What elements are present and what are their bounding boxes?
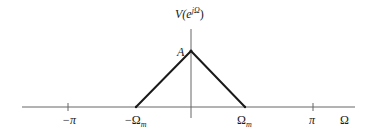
tick-label-pi: π [309,114,315,126]
y-axis-label-base: V(e [175,7,192,21]
y-axis-label-close: ) [200,7,204,21]
left-base-point [135,106,137,108]
tick-label-neg-omega-m: −Ωm [125,114,146,129]
y-axis-label-sup: jΩ [192,6,200,15]
tick-label-text: −Ω [125,113,141,127]
peak-point [190,50,193,53]
tick-label-neg-pi: −π [62,114,76,126]
peak-label: A [177,46,184,58]
x-axis-label: Ω [340,114,349,126]
tick-label-sub: m [246,120,252,129]
tick-label-sub: m [141,120,147,129]
y-axis-label: V(ejΩ) [175,7,204,20]
tick-label-text: −π [62,113,76,127]
tick-label-omega-m: Ωm [237,114,252,129]
right-base-point [244,106,246,108]
tick-label-text: Ω [237,113,246,127]
tick-label-text: π [309,113,315,127]
